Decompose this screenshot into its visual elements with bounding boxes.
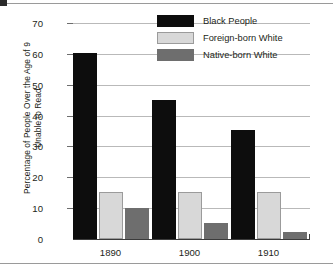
y-tick-label: 10 <box>3 203 43 214</box>
page-rule-top <box>0 3 333 4</box>
legend-swatch-icon <box>157 15 194 27</box>
bar <box>152 100 176 239</box>
bar <box>204 223 228 239</box>
y-tick-label: 60 <box>3 48 43 59</box>
legend-label: Foreign-born White <box>203 33 283 43</box>
legend-swatch-icon <box>157 49 194 61</box>
x-tick-label: 1890 <box>100 247 121 258</box>
y-tick-label: 0 <box>3 234 43 245</box>
bar <box>125 208 149 239</box>
y-tick-label: 40 <box>3 110 43 121</box>
gridline <box>73 85 310 86</box>
gridline <box>73 146 310 147</box>
gridline <box>73 177 310 178</box>
y-tick-label: 70 <box>3 18 43 29</box>
y-tick-mark <box>67 23 73 24</box>
y-tick-label: 30 <box>3 141 43 152</box>
x-axis-line <box>73 239 310 240</box>
x-tick-label: 1900 <box>179 247 200 258</box>
page-rule-bottom <box>0 263 333 264</box>
legend-swatch-icon <box>157 32 194 44</box>
y-axis-end-right <box>309 234 310 240</box>
bar <box>99 192 123 239</box>
gridline <box>73 116 310 117</box>
bar <box>283 232 307 239</box>
corner-mark <box>0 0 7 6</box>
x-tick-label: 1910 <box>258 247 279 258</box>
legend-label: Black People <box>203 16 257 26</box>
bar <box>178 192 202 239</box>
y-tick-label: 20 <box>3 172 43 183</box>
y-tick-label: 50 <box>3 79 43 90</box>
bar <box>231 130 255 239</box>
chart-figure: Percentage of People Over the Age of 9 U… <box>0 0 333 274</box>
legend-label: Native-born White <box>203 50 277 60</box>
bar <box>257 192 281 239</box>
bar <box>73 53 97 239</box>
